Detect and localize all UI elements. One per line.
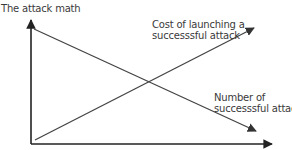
number-label-line1: Number of bbox=[214, 92, 292, 103]
number-label-line2: successsful attacks bbox=[214, 103, 292, 114]
attack-math-diagram bbox=[0, 0, 292, 150]
cost-line-label: Cost of launching a successsful attack bbox=[152, 19, 245, 41]
cost-label-line1: Cost of launching a bbox=[152, 19, 245, 30]
number-line-label: Number of successsful attacks bbox=[214, 92, 292, 114]
cost-label-line2: successsful attack bbox=[152, 30, 245, 41]
